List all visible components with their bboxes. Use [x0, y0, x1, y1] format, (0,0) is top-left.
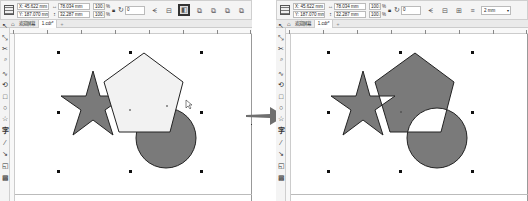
width-icon: ↔	[52, 3, 57, 9]
tab-document[interactable]: 1.cdr*	[38, 20, 58, 28]
text-tool-icon[interactable]: 字	[277, 126, 285, 135]
after-panel: X: 45.622 mm Y: 187.070 mm ↔78.034 mm ↕3…	[276, 0, 528, 201]
intersect-button[interactable]: ⧉	[223, 6, 232, 15]
height-field[interactable]: 32.287 mm	[334, 11, 366, 18]
shapes-after-combined	[291, 34, 528, 201]
percent-label: %	[382, 12, 386, 17]
mirror-vertical-icon[interactable]: ⊟	[440, 6, 449, 15]
dimension-tool-icon[interactable]: ⁄	[277, 138, 285, 147]
drawing-canvas[interactable]	[15, 34, 252, 201]
scale-width-field[interactable]: 100.0	[93, 3, 105, 10]
outline-width-dropdown[interactable]: 2 mm ▾	[481, 6, 511, 15]
toolbox: ↖ ⤡ ✂ ⌕ ∿ ⟲ □ ○ ☆ 字 ⁄ ↘ ◱ ▩	[0, 28, 10, 201]
x-position-field[interactable]: X: 45.622 mm	[17, 3, 49, 10]
height-icon: ↕	[328, 11, 333, 17]
add-tab-button[interactable]: +	[57, 20, 66, 28]
scale-width-field[interactable]: 100.0	[369, 3, 381, 10]
dimension-tool-icon[interactable]: ⁄	[1, 138, 9, 147]
transparency-tool-icon[interactable]: ▩	[1, 173, 9, 182]
pentagon-shape	[104, 53, 183, 132]
pick-tool-icon[interactable]: ↖	[277, 21, 285, 30]
break-apart-button[interactable]: ⊞	[454, 6, 463, 15]
tab-document[interactable]: 1.cdr*	[314, 20, 334, 28]
add-tab-button[interactable]: +	[333, 20, 342, 28]
scale-height-field[interactable]: 100.0	[369, 11, 381, 18]
width-field[interactable]: 78.034 mm	[334, 3, 366, 10]
shapes-before	[15, 34, 252, 201]
rectangle-tool-icon[interactable]: □	[277, 92, 285, 101]
width-icon: ↔	[328, 3, 333, 9]
mirror-horizontal-icon[interactable]: ᗕ	[426, 6, 435, 15]
freehand-tool-icon[interactable]: ∿	[277, 69, 285, 78]
outline-width-value: 2 mm	[484, 8, 495, 13]
ellipse-tool-icon[interactable]: ○	[1, 103, 9, 112]
rectangle-tool-icon[interactable]: □	[1, 92, 9, 101]
outline-width-icon: ≡	[468, 6, 477, 15]
document-tabs: ⌂ 欢迎屏幕 1.cdr* +	[0, 20, 252, 28]
property-bar: X: 45.622 mm Y: 187.070 mm ↔78.034 mm ↕3…	[276, 0, 528, 20]
text-tool-icon[interactable]: 字	[1, 126, 9, 135]
freehand-tool-icon[interactable]: ∿	[1, 69, 9, 78]
smart-fill-tool-icon[interactable]: ⟲	[277, 80, 285, 89]
y-position-field[interactable]: Y: 187.070 mm	[293, 11, 325, 18]
polygon-tool-icon[interactable]: ☆	[1, 114, 9, 123]
scale-height-field[interactable]: 100.0	[93, 11, 105, 18]
lock-ratio-icon[interactable]: 🔒︎	[388, 7, 391, 14]
crop-tool-icon[interactable]: ✂	[277, 44, 285, 53]
connector-tool-icon[interactable]: ↘	[277, 149, 285, 158]
crop-tool-icon[interactable]: ✂	[1, 44, 9, 53]
rotation-icon: ↻	[118, 6, 124, 14]
connector-tool-icon[interactable]: ↘	[1, 149, 9, 158]
simplify-button[interactable]: ⧉	[237, 6, 246, 15]
mirror-vertical-icon[interactable]: ⊟	[164, 6, 173, 15]
x-position-field[interactable]: X: 45.622 mm	[293, 3, 325, 10]
cursor-icon	[186, 100, 192, 109]
pick-tool-icon[interactable]: ↖	[1, 21, 9, 30]
drawing-canvas[interactable]	[291, 34, 528, 201]
weld-button[interactable]: ⧉	[195, 6, 204, 15]
width-field[interactable]: 78.034 mm	[58, 3, 90, 10]
polygon-tool-icon[interactable]: ☆	[277, 114, 285, 123]
transparency-tool-icon[interactable]: ▩	[277, 173, 285, 182]
drop-shadow-tool-icon[interactable]: ◱	[1, 161, 9, 170]
before-panel: X: 45.622 mm Y: 187.070 mm ↔78.034 mm ↕3…	[0, 0, 252, 201]
smart-fill-tool-icon[interactable]: ⟲	[1, 80, 9, 89]
mirror-horizontal-icon[interactable]: ᗕ	[150, 6, 159, 15]
property-bar: X: 45.622 mm Y: 187.070 mm ↔78.034 mm ↕3…	[0, 0, 252, 20]
shape-tool-icon[interactable]: ⤡	[277, 33, 285, 42]
percent-label: %	[382, 4, 386, 9]
toolbox: ↖ ⤡ ✂ ⌕ ∿ ⟲ □ ○ ☆ 字 ⁄ ↘ ◱ ▩	[276, 28, 286, 201]
percent-label: %	[106, 12, 110, 17]
object-origin-icon[interactable]	[280, 5, 290, 15]
object-origin-icon[interactable]	[4, 5, 14, 15]
combine-button[interactable]: ◧	[178, 4, 190, 16]
drop-shadow-tool-icon[interactable]: ◱	[277, 161, 285, 170]
tab-welcome[interactable]: 欢迎屏幕	[292, 20, 314, 28]
rotation-field[interactable]: 0	[401, 6, 421, 15]
percent-label: %	[106, 4, 110, 9]
ellipse-tool-icon[interactable]: ○	[277, 103, 285, 112]
height-field[interactable]: 32.287 mm	[58, 11, 90, 18]
document-tabs: ⌂ 欢迎屏幕 1.cdr* +	[276, 20, 528, 28]
tab-welcome[interactable]: 欢迎屏幕	[16, 20, 38, 28]
zoom-tool-icon[interactable]: ⌕	[277, 55, 285, 64]
page-border	[291, 194, 528, 195]
combined-shape	[331, 53, 467, 168]
chevron-down-icon: ▾	[507, 8, 510, 13]
shape-tool-icon[interactable]: ⤡	[1, 33, 9, 42]
rotation-field[interactable]: 0	[125, 6, 145, 15]
trim-button[interactable]: ⧉	[209, 6, 218, 15]
lock-ratio-icon[interactable]: 🔒︎	[112, 7, 115, 14]
rotation-icon: ↻	[394, 6, 400, 14]
page-border	[15, 194, 252, 195]
height-icon: ↕	[52, 11, 57, 17]
zoom-tool-icon[interactable]: ⌕	[1, 55, 9, 64]
y-position-field[interactable]: Y: 187.070 mm	[17, 11, 49, 18]
